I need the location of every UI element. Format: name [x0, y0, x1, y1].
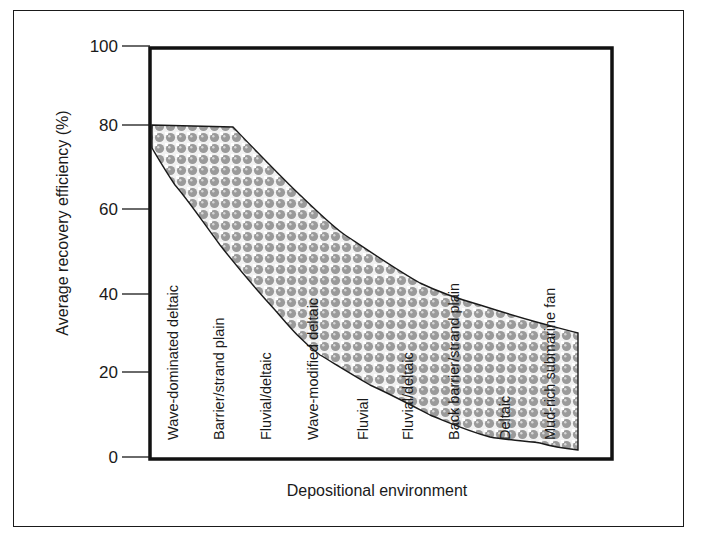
y-tick-label: 100 [90, 37, 118, 56]
env-label-deltaic: Deltaic [497, 396, 513, 440]
y-axis-title: Average recovery efficiency (%) [54, 110, 71, 335]
recovery-efficiency-chart: 100 80 60 40 20 0 Average recovery effic… [0, 0, 702, 545]
env-label-back-barrier-strand-plain: Back barrier/strand plain [446, 283, 462, 440]
y-tick-label: 60 [99, 200, 118, 219]
y-tick-label: 40 [99, 285, 118, 304]
env-label-wave-dominated-deltaic: Wave-dominated deltaic [165, 285, 181, 440]
env-label-barrier-strand-plain: Barrier/strand plain [211, 318, 227, 441]
env-label-fluvial-deltaic-2: Fluvial/deltaic [400, 352, 416, 440]
x-axis-title: Depositional environment [287, 482, 468, 499]
y-axis: 100 80 60 40 20 0 [90, 37, 150, 467]
env-label-wave-modified-deltaic: Wave-modified deltaic [305, 298, 321, 440]
env-label-fluvial-deltaic: Fluvial/deltaic [258, 352, 274, 440]
env-label-fluvial: Fluvial [355, 398, 371, 440]
y-tick-label: 0 [109, 448, 118, 467]
y-tick-label: 20 [99, 363, 118, 382]
y-tick-label: 80 [99, 116, 118, 135]
env-label-mud-rich-submarine-fan: Mud-rich submarine fan [542, 288, 558, 440]
